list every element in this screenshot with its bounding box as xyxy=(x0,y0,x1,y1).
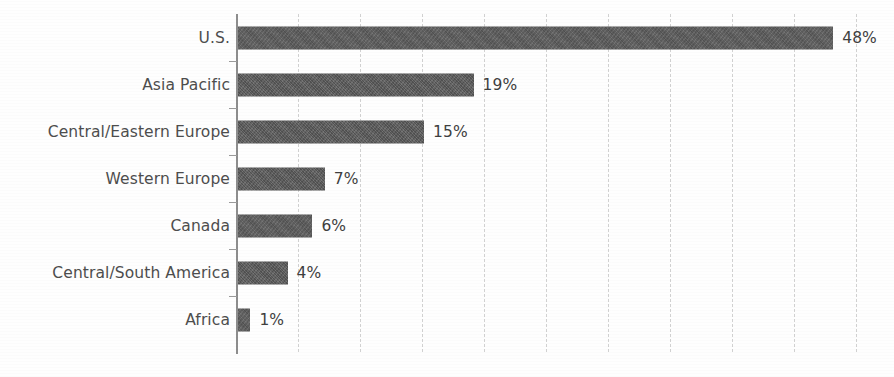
bar-5 xyxy=(238,261,288,284)
axis-tick-4 xyxy=(229,202,237,203)
bar-value-label-4: 6% xyxy=(321,217,346,235)
category-label-2: Central/Eastern Europe xyxy=(48,123,230,141)
bar-row: Canada6% xyxy=(0,202,894,249)
bar-value-label-5: 4% xyxy=(297,264,322,282)
bar-wrapper: 6% xyxy=(238,214,346,237)
bar-0 xyxy=(238,26,833,49)
bar-value-label-6: 1% xyxy=(259,311,284,329)
axis-tick-6 xyxy=(229,296,237,297)
category-label-1: Asia Pacific xyxy=(142,76,230,94)
bar-3 xyxy=(238,167,325,190)
bar-value-label-0: 48% xyxy=(842,29,877,47)
bar-value-label-1: 19% xyxy=(483,76,518,94)
bar-wrapper: 48% xyxy=(238,26,877,49)
axis-tick-2 xyxy=(229,108,237,109)
category-label-3: Western Europe xyxy=(106,170,230,188)
category-label-6: Africa xyxy=(185,311,230,329)
bar-2 xyxy=(238,120,424,143)
bar-value-label-3: 7% xyxy=(334,170,359,188)
bar-chart: U.S.48%Asia Pacific19%Central/Eastern Eu… xyxy=(0,0,894,377)
bar-wrapper: 1% xyxy=(238,308,284,331)
category-label-0: U.S. xyxy=(199,29,230,47)
bar-6 xyxy=(238,308,250,331)
bar-wrapper: 15% xyxy=(238,120,468,143)
bar-value-label-2: 15% xyxy=(433,123,468,141)
bar-wrapper: 7% xyxy=(238,167,359,190)
axis-tick-1 xyxy=(229,61,237,62)
bar-row: Asia Pacific19% xyxy=(0,61,894,108)
bar-1 xyxy=(238,73,474,96)
category-label-4: Canada xyxy=(170,217,230,235)
bar-row: Africa1% xyxy=(0,296,894,343)
category-label-5: Central/South America xyxy=(52,264,230,282)
bar-row: Central/South America4% xyxy=(0,249,894,296)
bar-row: Western Europe7% xyxy=(0,155,894,202)
bar-wrapper: 19% xyxy=(238,73,517,96)
axis-tick-3 xyxy=(229,155,237,156)
bar-row: Central/Eastern Europe15% xyxy=(0,108,894,155)
bar-wrapper: 4% xyxy=(238,261,321,284)
bar-row: U.S.48% xyxy=(0,14,894,61)
axis-tick-5 xyxy=(229,249,237,250)
bar-4 xyxy=(238,214,312,237)
